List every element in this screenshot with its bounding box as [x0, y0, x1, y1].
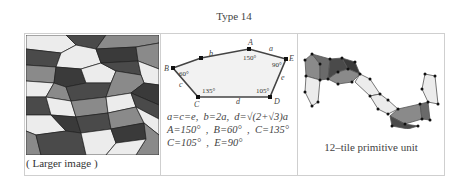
formula-line: a=c=e, b=2a, d=√(2+√3)a	[167, 110, 289, 123]
pentagon-diagram: A B C D E a b c d e 150° 60° 135° 105° 9…	[161, 34, 298, 109]
edge-label-c: c	[179, 80, 183, 89]
tiling-image[interactable]	[26, 35, 159, 155]
vertex-label-c: C	[194, 100, 200, 109]
edge-label-a: a	[269, 44, 273, 53]
vertex-label-e: E	[288, 54, 294, 63]
tiling-table: ( Larger image ) A B C D E a b c d	[24, 33, 445, 176]
angle-label-c: 135°	[202, 87, 216, 95]
vertex-label-b: B	[164, 64, 169, 73]
tiling-preview-cell: ( Larger image )	[25, 34, 161, 175]
angle-label-e: 90°	[272, 61, 282, 69]
edge-label-e: e	[281, 73, 285, 82]
edge-label-d: d	[236, 97, 241, 106]
angle-label-a: 150°	[243, 54, 257, 62]
angle-label-d: 105°	[256, 87, 270, 95]
edge-label-b: b	[209, 49, 213, 58]
formula-block: a=c=e, b=2a, d=√(2+√3)aA=150° , B=60° , …	[167, 110, 289, 149]
angle-label-b: 60°	[179, 70, 189, 78]
primitive-unit-diagram	[300, 34, 445, 129]
primitive-unit-caption: 12–tile primitive unit	[298, 141, 444, 153]
formula-line: C=105° , E=90°	[167, 136, 289, 149]
larger-image-link[interactable]: ( Larger image )	[26, 157, 98, 169]
formula-line: A=150° , B=60° , C=135°	[167, 123, 289, 136]
pentagon-diagram-cell: A B C D E a b c d e 150° 60° 135° 105° 9…	[161, 34, 298, 175]
vertex-label-a: A	[247, 38, 253, 47]
vertex-label-d: D	[273, 97, 280, 106]
primitive-unit-cell: 12–tile primitive unit	[298, 34, 444, 175]
page-title: Type 14	[0, 10, 468, 22]
